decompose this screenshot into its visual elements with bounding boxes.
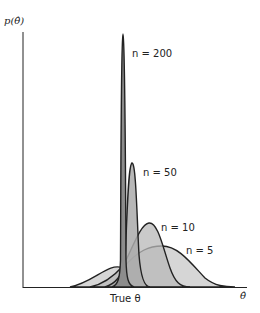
curve-label-n10: n = 10 [161, 222, 195, 233]
curve-label-n200: n = 200 [132, 48, 172, 59]
curve-label-n50: n = 50 [143, 167, 177, 178]
sampling-distribution-diagram [0, 0, 260, 313]
y-axis-label: p(θ̂) [4, 15, 24, 26]
x-axis-label: θ̂ [240, 290, 246, 301]
curve-label-n5: n = 5 [186, 245, 213, 256]
true-theta-label: True θ [110, 293, 141, 304]
